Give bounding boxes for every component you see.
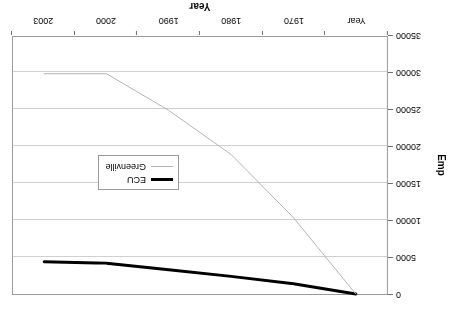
y-axis-title: Emp [436,155,447,177]
y-axis-tickmark [388,72,393,73]
legend-item-greenville: Greenville [105,160,173,173]
legend-label-greenville: Greenville [105,162,146,171]
x-axis-tick-label: 1990 [159,16,179,25]
y-axis-tick-label: 15000 [396,180,421,189]
y-axis-tick-label: 30000 [396,69,421,78]
y-axis: Emp 05000100001500020000250003000035000 [388,36,454,295]
y-axis-tick-label: 5000 [396,254,416,263]
y-axis-tick-label: 20000 [396,143,421,152]
y-axis-tick-label: 10000 [396,217,421,226]
legend-label-ecu: ECU [127,175,146,184]
x-axis-tickmark [11,31,12,35]
x-axis: Year19701980199020002003 Year [12,1,388,35]
x-axis-tick-label: 2003 [33,16,53,25]
legend-item-ecu: ECU [105,173,173,186]
chart-legend: ECU Greenville [98,155,179,190]
y-axis-tickmark [388,35,393,36]
y-axis-tickmark [388,109,393,110]
y-axis-tickmark [388,257,393,258]
x-axis-tickmark [199,31,200,35]
legend-swatch-ecu-icon [151,178,173,181]
x-axis-tick-label: 2000 [96,16,116,25]
series-lines [13,37,387,294]
y-axis-tickmark [388,146,393,147]
x-axis-tickmark [74,31,75,35]
rotated-figure-container: Emp 05000100001500020000250003000035000 … [0,0,454,312]
x-axis-tick-label: Year [348,16,366,25]
x-axis-tickmark [136,31,137,35]
y-axis-tick-label: 35000 [396,32,421,41]
series-line-ecu [44,262,356,294]
y-axis-tick-label: 0 [396,291,401,300]
x-axis-tickmark [262,31,263,35]
x-axis-tick-label: 1970 [284,16,304,25]
legend-swatch-greenville-icon [151,166,173,167]
x-axis-title: Year [12,1,388,12]
x-axis-tickmark [387,31,388,35]
x-axis-tick-label: 1980 [221,16,241,25]
line-chart: Emp 05000100001500020000250003000035000 … [0,0,454,312]
x-axis-tickmark [324,31,325,35]
y-axis-tick-label: 25000 [396,106,421,115]
y-axis-tickmark [388,183,393,184]
series-line-greenville [44,74,356,294]
y-axis-tickmark [388,220,393,221]
plot-area [12,36,388,295]
y-axis-tickmark [388,294,393,295]
